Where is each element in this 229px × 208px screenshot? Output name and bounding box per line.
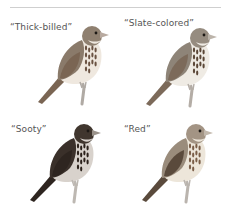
breast-streak — [77, 165, 79, 170]
breast-streak — [203, 64, 205, 69]
bill — [92, 130, 101, 136]
breast-streak — [87, 160, 89, 165]
slate-colored-bird-illustration — [138, 20, 222, 110]
breast-streak — [95, 62, 97, 67]
thick-billed-bird-illustration — [30, 18, 114, 108]
eye — [199, 130, 202, 133]
breast-streak — [87, 153, 89, 158]
breast-streak — [196, 57, 198, 62]
sooty-bird-illustration — [22, 116, 106, 206]
breast-streak — [196, 64, 198, 69]
breast-streak — [91, 53, 93, 58]
panel-slate-colored: “Slate-colored” — [114, 8, 228, 108]
breast-streak — [80, 153, 82, 158]
breast-streak — [95, 48, 97, 53]
breast-streak — [193, 62, 195, 67]
breast-streak — [203, 57, 205, 62]
breast-streak — [85, 53, 87, 58]
bill — [208, 34, 217, 40]
breast-streak — [192, 160, 194, 165]
eye — [95, 32, 98, 35]
breast-streak — [193, 48, 195, 53]
breast-streak — [203, 50, 205, 55]
breast-streak — [189, 151, 191, 156]
breast-streak — [88, 69, 90, 74]
breast-streak — [77, 158, 79, 163]
breast-streak — [192, 153, 194, 158]
breast-streak — [85, 46, 87, 51]
breast-streak — [91, 46, 93, 51]
breast-streak — [199, 62, 201, 67]
breast-streak — [199, 48, 201, 53]
breast-streak — [196, 50, 198, 55]
breast-streak — [80, 146, 82, 151]
breast-streak — [199, 55, 201, 60]
bill — [204, 130, 213, 136]
eye — [87, 130, 90, 133]
breast-streak — [83, 144, 85, 149]
breast-streak — [192, 167, 194, 172]
breast-streak — [195, 158, 197, 163]
breast-streak — [85, 60, 87, 65]
breast-streak — [195, 144, 197, 149]
breast-streak — [83, 151, 85, 156]
panel-red: “Red” — [114, 106, 228, 206]
breast-streak — [189, 144, 191, 149]
breast-streak — [77, 144, 79, 149]
breast-streak — [189, 165, 191, 170]
breast-streak — [199, 160, 201, 165]
panel-thick-billed: “Thick-billed” — [0, 8, 114, 108]
breast-streak — [88, 62, 90, 67]
red-bird-illustration — [134, 116, 218, 206]
breast-streak — [87, 146, 89, 151]
breast-streak — [80, 167, 82, 172]
breast-streak — [83, 158, 85, 163]
breast-streak — [77, 151, 79, 156]
breast-streak — [85, 67, 87, 72]
breast-streak — [193, 69, 195, 74]
breast-streak — [195, 151, 197, 156]
breast-streak — [199, 153, 201, 158]
breast-streak — [196, 71, 198, 76]
breast-streak — [193, 55, 195, 60]
breast-streak — [199, 146, 201, 151]
breast-streak — [91, 60, 93, 65]
panel-sooty: “Sooty” — [0, 106, 114, 206]
breast-streak — [192, 146, 194, 151]
eye — [203, 34, 206, 37]
breast-streak — [80, 160, 82, 165]
breast-streak — [189, 158, 191, 163]
breast-streak — [88, 55, 90, 60]
breast-streak — [95, 55, 97, 60]
breast-streak — [88, 48, 90, 53]
bill — [100, 32, 109, 38]
